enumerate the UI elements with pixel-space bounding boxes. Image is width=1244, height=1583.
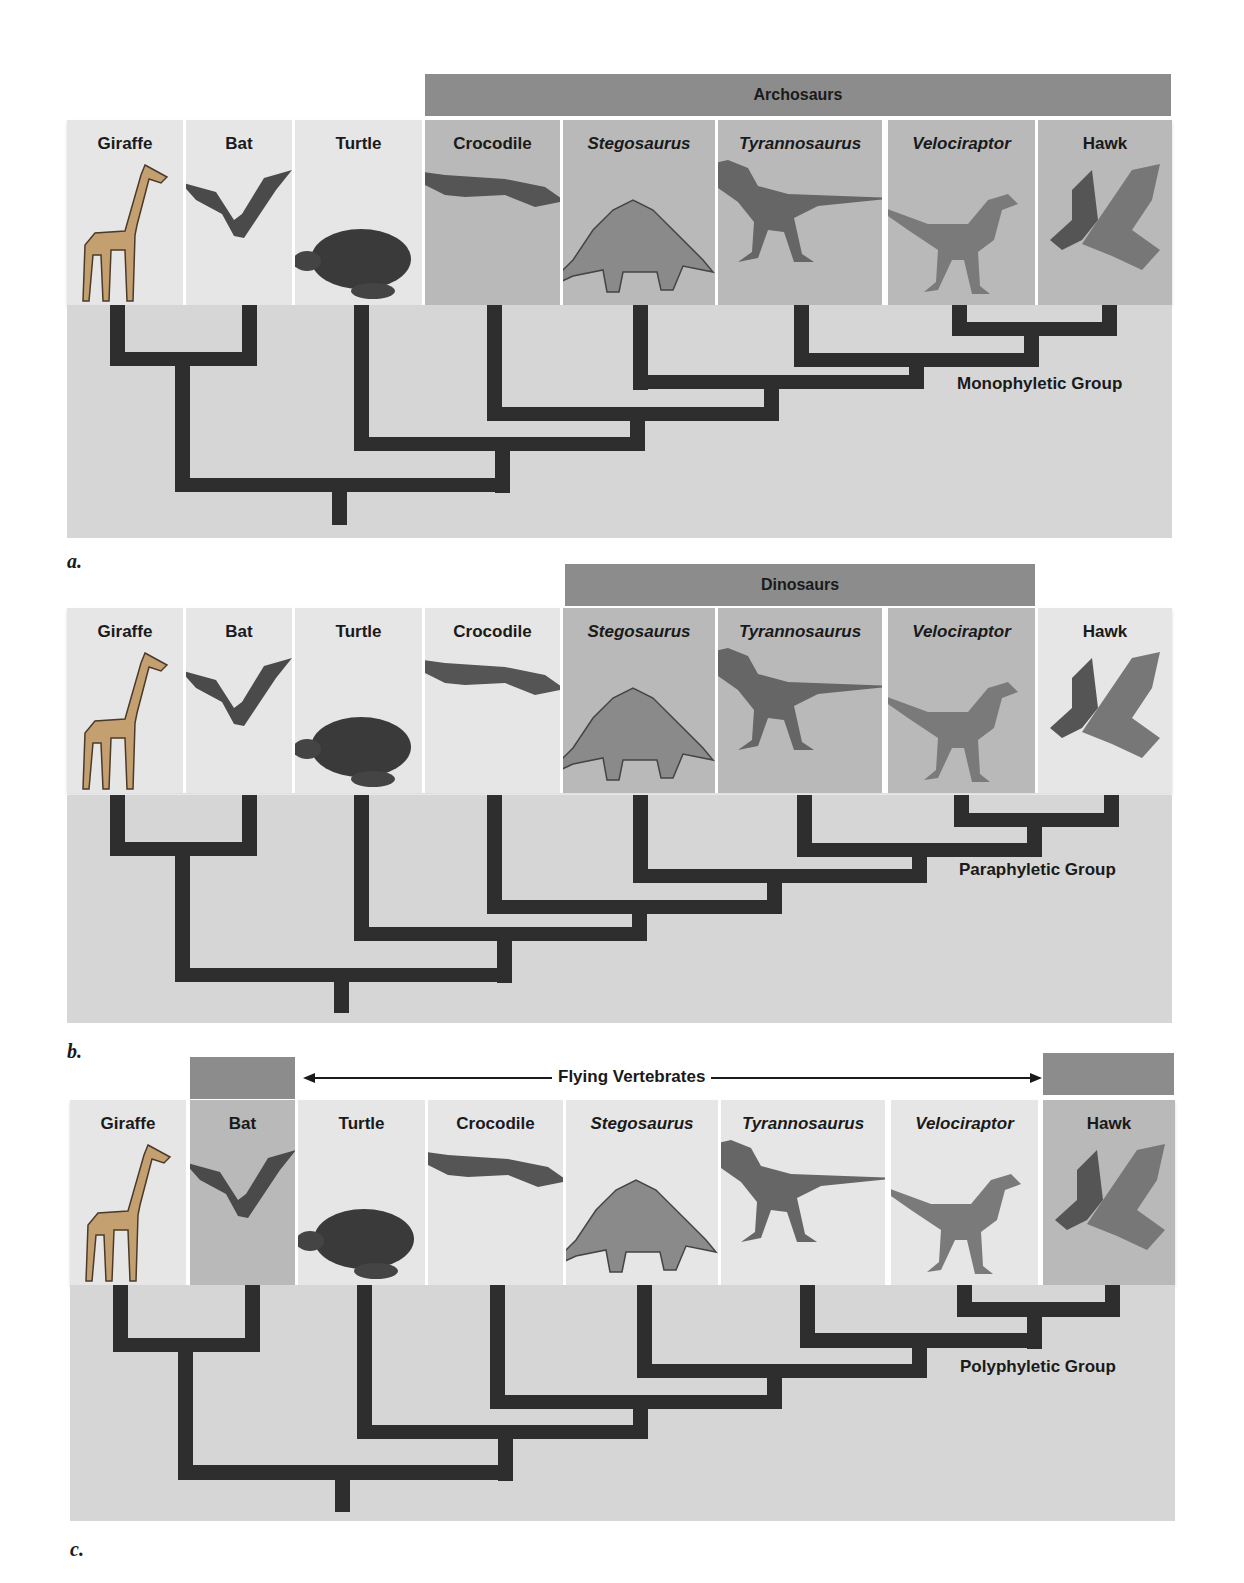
taxon-giraffe: Giraffe — [70, 1100, 186, 1285]
bat-group-bar — [190, 1057, 295, 1099]
dinosaurs-group-bar: Dinosaurs — [565, 564, 1035, 606]
panel-letter: b. — [67, 1040, 82, 1063]
taxon-crocodile: Crocodile — [425, 608, 560, 793]
taxon-label: Tyrannosaurus — [718, 134, 882, 154]
taxon-label: Bat — [186, 134, 292, 154]
taxon-label: Tyrannosaurus — [721, 1114, 885, 1134]
taxon-label: Hawk — [1038, 622, 1172, 642]
group-type-label: Paraphyletic Group — [959, 860, 1116, 880]
group-bar-label: Dinosaurs — [761, 576, 839, 594]
group-type-label: Polyphyletic Group — [960, 1357, 1116, 1377]
taxon-label: Giraffe — [67, 134, 183, 154]
taxon-turtle: Turtle — [295, 608, 422, 793]
taxon-tyrannosaurus: Tyrannosaurus — [718, 120, 882, 305]
stegosaurus-icon — [566, 1160, 718, 1280]
stegosaurus-icon — [563, 668, 715, 788]
taxon-label: Turtle — [298, 1114, 425, 1134]
taxon-crocodile: Crocodile — [425, 120, 560, 305]
crocodile-icon — [425, 165, 560, 235]
giraffe-icon — [75, 155, 175, 305]
hawk-icon — [1042, 160, 1170, 280]
turtle-icon — [295, 215, 422, 300]
taxon-label: Crocodile — [425, 134, 560, 154]
taxon-label: Hawk — [1038, 134, 1172, 154]
taxon-label: Crocodile — [425, 622, 560, 642]
turtle-icon — [295, 703, 422, 788]
panel-letter: a. — [67, 550, 82, 573]
taxa-strip: Giraffe Bat Turtle Crocodile — [70, 1100, 1175, 1285]
taxon-label: Stegosaurus — [563, 622, 715, 642]
taxon-label: Velociraptor — [888, 134, 1035, 154]
tyrannosaurus-icon — [721, 1138, 885, 1248]
taxon-label: Tyrannosaurus — [718, 622, 882, 642]
taxon-label: Hawk — [1043, 1114, 1175, 1134]
taxon-label: Bat — [190, 1114, 295, 1134]
velociraptor-icon — [888, 678, 1035, 788]
taxon-label: Velociraptor — [891, 1114, 1038, 1134]
tyrannosaurus-icon — [718, 158, 882, 268]
taxon-stegosaurus: Stegosaurus — [563, 120, 715, 305]
tyrannosaurus-icon — [718, 646, 882, 756]
taxon-stegosaurus: Stegosaurus — [566, 1100, 718, 1285]
arrow-right-icon — [1030, 1073, 1042, 1083]
cladogram-branches — [67, 305, 1172, 538]
taxa-strip: Giraffe Bat Turtle Crocodile — [67, 608, 1172, 793]
group-type-label: Monophyletic Group — [957, 374, 1122, 394]
giraffe-icon — [75, 643, 175, 793]
velociraptor-icon — [888, 190, 1035, 300]
taxon-label: Velociraptor — [888, 622, 1035, 642]
cladogram-a: Monophyletic Group — [67, 305, 1172, 538]
taxon-hawk: Hawk — [1043, 1100, 1175, 1285]
cladogram-b: Paraphyletic Group — [67, 795, 1172, 1023]
taxon-stegosaurus: Stegosaurus — [563, 608, 715, 793]
taxon-hawk: Hawk — [1038, 608, 1172, 793]
flying-vertebrates-label: Flying Vertebrates — [552, 1067, 711, 1087]
panel-letter: c. — [70, 1538, 84, 1561]
bat-icon — [190, 1148, 295, 1228]
turtle-icon — [298, 1195, 425, 1280]
group-bar-label: Archosaurs — [754, 86, 843, 104]
taxon-bat: Bat — [186, 608, 292, 793]
taxon-label: Giraffe — [67, 622, 183, 642]
taxon-label: Stegosaurus — [563, 134, 715, 154]
cladogram-branches — [67, 795, 1172, 1023]
taxon-velociraptor: Velociraptor — [888, 608, 1035, 793]
taxon-bat: Bat — [186, 120, 292, 305]
taxon-crocodile: Crocodile — [428, 1100, 563, 1285]
hawk-group-bar — [1043, 1053, 1174, 1095]
crocodile-icon — [425, 653, 560, 723]
taxon-velociraptor: Velociraptor — [888, 120, 1035, 305]
bat-icon — [186, 656, 292, 736]
taxon-hawk: Hawk — [1038, 120, 1172, 305]
taxon-tyrannosaurus: Tyrannosaurus — [721, 1100, 885, 1285]
taxon-turtle: Turtle — [298, 1100, 425, 1285]
hawk-icon — [1042, 648, 1170, 768]
hawk-icon — [1047, 1140, 1175, 1260]
cladogram-c: Polyphyletic Group — [70, 1285, 1175, 1521]
bat-icon — [186, 168, 292, 248]
giraffe-icon — [78, 1135, 178, 1285]
taxon-label: Turtle — [295, 622, 422, 642]
taxon-label: Bat — [186, 622, 292, 642]
taxon-bat: Bat — [190, 1100, 295, 1285]
stegosaurus-icon — [563, 180, 715, 300]
taxon-giraffe: Giraffe — [67, 608, 183, 793]
taxon-giraffe: Giraffe — [67, 120, 183, 305]
cladogram-branches — [70, 1285, 1175, 1521]
velociraptor-icon — [891, 1170, 1038, 1280]
crocodile-icon — [428, 1145, 563, 1215]
taxon-velociraptor: Velociraptor — [891, 1100, 1038, 1285]
taxon-turtle: Turtle — [295, 120, 422, 305]
taxon-label: Turtle — [295, 134, 422, 154]
taxon-label: Giraffe — [70, 1114, 186, 1134]
taxon-label: Crocodile — [428, 1114, 563, 1134]
taxon-label: Stegosaurus — [566, 1114, 718, 1134]
archosaurs-group-bar: Archosaurs — [425, 74, 1171, 116]
taxon-tyrannosaurus: Tyrannosaurus — [718, 608, 882, 793]
taxa-strip: Giraffe Bat Turtle Crocodile — [67, 120, 1172, 305]
